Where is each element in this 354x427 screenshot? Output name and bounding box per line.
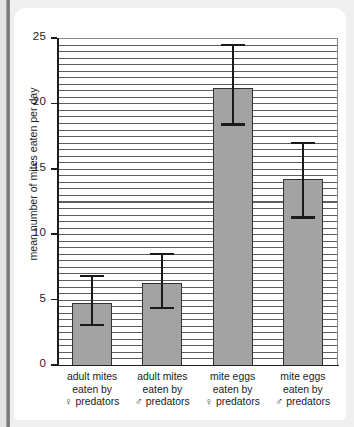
x-axis-label-line: adult mites bbox=[127, 371, 197, 384]
error-bar-cap-upper bbox=[80, 275, 104, 277]
error-bar-cap-upper bbox=[291, 142, 315, 144]
x-axis-line bbox=[52, 365, 339, 367]
y-tick-label: 5 bbox=[39, 292, 46, 304]
error-bar-cap-lower bbox=[221, 123, 245, 125]
x-axis-label-line: eaten by bbox=[57, 384, 127, 397]
error-bar-line bbox=[302, 144, 304, 219]
error-bar-cap-upper bbox=[150, 253, 174, 255]
x-axis-label-line: eaten by bbox=[198, 384, 268, 397]
x-axis-label-line: ♂ predators bbox=[127, 396, 197, 409]
y-tick-mark bbox=[51, 103, 57, 105]
x-axis-label-line: mite eggs bbox=[198, 371, 268, 384]
plot-border-top bbox=[57, 38, 338, 39]
y-axis-title: mean number of mites eaten per day bbox=[27, 69, 39, 279]
page-spine-edge bbox=[6, 0, 10, 427]
error-bar-line bbox=[161, 255, 163, 309]
x-axis-label-line: eaten by bbox=[127, 384, 197, 397]
y-tick-mark bbox=[51, 233, 57, 235]
y-tick-label: 0 bbox=[39, 357, 46, 369]
plot-border-right bbox=[337, 38, 338, 365]
bar[interactable] bbox=[213, 88, 253, 365]
x-axis-label: adult miteseaten by♂ predators bbox=[127, 371, 197, 409]
error-bar-cap-lower bbox=[150, 307, 174, 309]
error-bar-cap-upper bbox=[221, 44, 245, 46]
bar-group[interactable] bbox=[72, 38, 112, 365]
x-axis-label-line: ♀ predators bbox=[198, 396, 268, 409]
y-axis-line bbox=[57, 38, 59, 366]
y-tick-mark bbox=[51, 168, 57, 170]
x-axis-label-line: ♀ predators bbox=[57, 396, 127, 409]
y-tick-mark bbox=[51, 299, 57, 301]
error-bar-line bbox=[232, 46, 234, 126]
page: 0510152025 mean number of mites eaten pe… bbox=[0, 0, 354, 427]
bar-group[interactable] bbox=[213, 38, 253, 365]
x-axis-label-line: eaten by bbox=[268, 384, 338, 397]
plot-area bbox=[57, 38, 338, 365]
x-axis-label-line: ♂ predators bbox=[268, 396, 338, 409]
x-axis-label: adult miteseaten by♀ predators bbox=[57, 371, 127, 409]
bar-chart: 0510152025 mean number of mites eaten pe… bbox=[14, 8, 346, 420]
error-bar-cap-lower bbox=[80, 324, 104, 326]
y-tick-mark bbox=[51, 37, 57, 39]
error-bar-line bbox=[91, 277, 93, 325]
x-axis-label-line: mite eggs bbox=[268, 371, 338, 384]
y-tick-label: 25 bbox=[33, 30, 46, 42]
x-axis-label: mite eggseaten by♀ predators bbox=[198, 371, 268, 409]
bar-group[interactable] bbox=[283, 38, 323, 365]
bar-group[interactable] bbox=[142, 38, 182, 365]
y-tick-mark bbox=[51, 364, 57, 366]
x-axis-label-line: adult mites bbox=[57, 371, 127, 384]
error-bar-cap-lower bbox=[291, 216, 315, 218]
x-axis-label: mite eggseaten by♂ predators bbox=[268, 371, 338, 409]
figure-card: 0510152025 mean number of mites eaten pe… bbox=[14, 8, 346, 420]
